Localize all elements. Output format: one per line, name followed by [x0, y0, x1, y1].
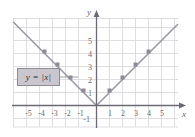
x-tick-label: 2 [121, 109, 125, 118]
x-tick-label: -4 [38, 109, 45, 118]
absolute-value-graph-figure: -5 -4 -3 -2 -1 1 2 3 4 5 -1 1 2 3 4 5 x … [0, 0, 195, 137]
x-tick-label: 1 [108, 109, 112, 118]
x-tick-label: 5 [160, 109, 164, 118]
y-tick-label: 3 [88, 63, 92, 72]
x-axis-tick-labels: -5 -4 -3 -2 -1 1 2 3 4 5 [25, 109, 164, 118]
y-tick-label: 5 [88, 37, 92, 46]
y-axis-tick-labels: -1 1 2 3 4 5 [83, 37, 92, 124]
x-tick-label: -5 [25, 109, 32, 118]
absolute-value-curve [14, 22, 178, 105]
y-tick-label: 1 [88, 89, 92, 98]
x-tick-label: 4 [147, 109, 151, 118]
x-tick-label: 3 [134, 109, 138, 118]
x-tick-label: -3 [51, 109, 58, 118]
equation-callout-box: y = |x| [17, 68, 60, 86]
x-axis-label: x [181, 109, 186, 119]
y-tick-label: 2 [88, 76, 92, 85]
x-tick-label: -2 [64, 109, 71, 118]
y-tick-label: 4 [88, 50, 92, 59]
y-tick-label: -1 [83, 115, 90, 124]
equation-label: y = |x| [26, 72, 52, 82]
y-axis-label: y [86, 7, 91, 17]
